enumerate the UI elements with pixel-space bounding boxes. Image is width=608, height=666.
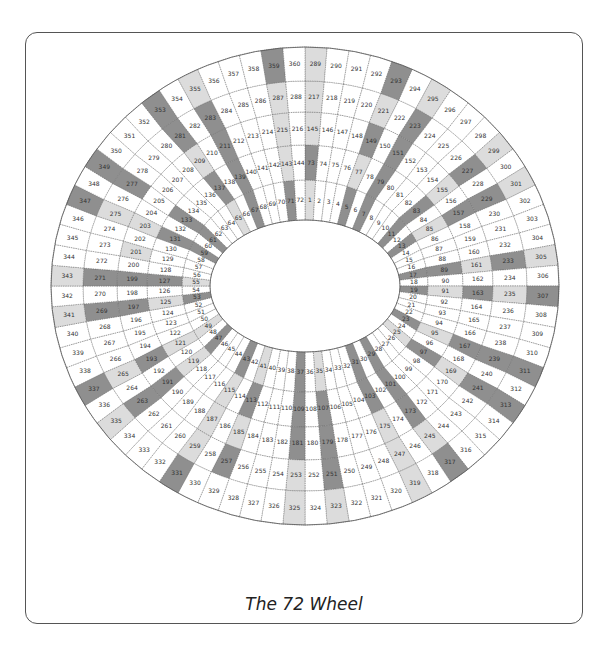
wheel-cell-number: 192 (153, 367, 165, 374)
wheel-cell-number: 69 (268, 200, 276, 207)
wheel-cell-number: 326 (268, 502, 280, 509)
wheel-cell-number: 242 (462, 397, 474, 404)
wheel-cell-number: 31 (351, 358, 359, 365)
wheel-cell-number: 338 (79, 367, 91, 374)
wheel-cell-number: 198 (126, 289, 138, 296)
wheel-cell-number: 187 (206, 415, 218, 422)
wheel-cell-number: 37 (296, 368, 304, 375)
wheel-cell-number: 129 (162, 255, 174, 262)
wheel-cell-number: 277 (126, 180, 138, 187)
wheel-cell-number: 357 (228, 70, 240, 77)
wheel-cell-number: 53 (193, 293, 201, 300)
wheel-cell-number: 334 (124, 432, 136, 439)
wheel-cell-number: 21 (408, 301, 416, 308)
wheel-cell-number: 300 (500, 163, 512, 170)
wheel-cell-number: 151 (392, 149, 404, 156)
wheel-cell-number: 57 (195, 263, 203, 270)
wheel-cell-number: 314 (488, 417, 500, 424)
wheel-cell-number: 208 (182, 166, 194, 173)
wheel-cell-number: 5 (345, 203, 349, 210)
wheel-cell-number: 117 (204, 373, 216, 380)
wheel-cell-number: 227 (462, 167, 474, 174)
wheel-cell-number: 90 (442, 277, 450, 284)
wheel-cell-number: 265 (117, 370, 129, 377)
wheel-cell-number: 19 (410, 286, 418, 293)
wheel-cell-number: 73 (307, 159, 315, 166)
wheel-cell-number: 22 (405, 308, 413, 315)
wheel-cell-number: 191 (162, 378, 174, 385)
wheel-cell-number: 87 (435, 245, 443, 252)
wheel-cell-number: 105 (341, 400, 353, 407)
wheel-cell-number: 29 (368, 350, 376, 357)
wheel-cell-number: 45 (228, 345, 236, 352)
wheel-cell-number: 169 (445, 367, 457, 374)
wheel-cell-number: 34 (325, 366, 333, 373)
wheel-cell-number: 155 (437, 186, 449, 193)
wheel-cell-number: 93 (438, 309, 446, 316)
wheel-cell-number: 305 (535, 253, 547, 260)
wheel-cell-number: 260 (174, 432, 186, 439)
wheel-cell-number: 16 (408, 263, 416, 270)
wheel-cell-number: 347 (79, 197, 91, 204)
wheel-cell-number: 355 (189, 85, 201, 92)
wheel-cell-number: 318 (427, 469, 439, 476)
wheel-cell-number: 329 (208, 487, 220, 494)
wheel-cell-number: 240 (481, 370, 493, 377)
wheel-cell-number: 168 (453, 355, 465, 362)
wheel-cell-number: 315 (475, 432, 487, 439)
wheel-cell-number: 122 (169, 329, 181, 336)
wheel-cell-number: 82 (405, 199, 413, 206)
wheel-cell-number: 278 (137, 167, 149, 174)
wheel-cell-number: 136 (204, 191, 216, 198)
wheel-cell-number: 121 (175, 339, 187, 346)
wheel-cell-number: 33 (334, 364, 342, 371)
wheel-cell-number: 262 (148, 410, 160, 417)
wheel-cell-number: 331 (171, 469, 183, 476)
wheel-cell-number: 104 (353, 396, 365, 403)
wheel-cell-number: 328 (228, 494, 240, 501)
wheel-cell-number: 269 (96, 307, 108, 314)
wheel-cell-number: 251 (326, 470, 338, 477)
wheel-cell-number: 296 (444, 106, 456, 113)
wheel-cell-number: 295 (427, 95, 439, 102)
wheel-cell-number: 356 (208, 77, 220, 84)
wheel-cell-number: 270 (94, 290, 106, 297)
wheel-cell-number: 66 (243, 210, 251, 217)
wheel-cell-number: 352 (138, 118, 150, 125)
wheel-cell-number: 226 (450, 154, 462, 161)
wheel-cell-number: 206 (162, 186, 174, 193)
wheel-cell-number: 98 (413, 357, 421, 364)
wheel-cell-number: 188 (194, 407, 206, 414)
wheel-cell-number: 235 (504, 290, 516, 297)
wheel-cell-number: 71 (287, 197, 295, 204)
wheel-cell-number: 211 (219, 142, 231, 149)
wheel-cell-number: 203 (139, 222, 151, 229)
wheel-cell-number: 233 (502, 257, 514, 264)
wheel-cell-number: 201 (130, 248, 142, 255)
wheel-cell-number: 250 (344, 467, 356, 474)
wheel-cell-number: 261 (161, 422, 173, 429)
wheel-cell-number: 84 (420, 216, 428, 223)
wheel-cell-number: 102 (375, 386, 387, 393)
wheel-cell-number: 231 (495, 225, 507, 232)
wheel-cell-number: 65 (235, 214, 243, 221)
wheel-cell-number: 264 (126, 384, 138, 391)
wheel-cell-number: 224 (424, 132, 436, 139)
wheel-cell-number: 177 (351, 432, 363, 439)
wheel-cell-number: 263 (137, 397, 149, 404)
wheel-cell-number: 150 (379, 142, 391, 149)
wheel-cell-number: 313 (500, 401, 512, 408)
wheel-cell-number: 222 (394, 114, 406, 121)
wheel-cell-number: 323 (330, 502, 342, 509)
wheel-cell-number: 101 (385, 380, 397, 387)
wheel-cell-number: 158 (459, 222, 471, 229)
wheel-cell-number: 180 (307, 439, 319, 446)
wheel-cell-number: 178 (337, 436, 349, 443)
wheel-cell-number: 94 (435, 319, 443, 326)
wheel-cell-number: 115 (224, 386, 236, 393)
wheel-cell-number: 103 (364, 392, 376, 399)
wheel-cell-number: 202 (134, 235, 146, 242)
wheel-cell-number: 77 (355, 168, 363, 175)
wheel-cell-number: 179 (322, 438, 334, 445)
wheel-cell-number: 321 (371, 494, 383, 501)
